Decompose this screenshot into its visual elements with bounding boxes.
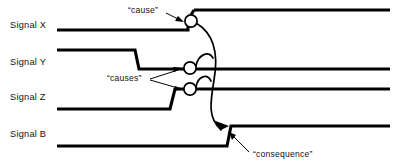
waveform-signal-z [57,89,390,109]
timing-diagram-canvas: Signal X Signal Y Signal Z Signal B “cau… [0,0,402,164]
annotation-causes: “causes” [107,67,183,91]
signal-label-b: Signal B [10,129,46,139]
causal-curve-z [196,76,211,87]
waveform-signal-x [57,10,390,30]
causal-curve-main [196,23,221,130]
event-node-cause-z[interactable] [184,83,196,95]
timing-diagram: Signal X Signal Y Signal Z Signal B “cau… [0,0,402,164]
waveform-signal-b [57,126,390,146]
annotation-consequence: “consequence” [229,132,312,159]
signal-label-z: Signal Z [10,92,46,102]
causal-link-z-arc [196,76,211,87]
annotation-cause-arrowhead [175,16,184,22]
signal-z-rising-segment [57,89,184,109]
signal-b-rising-segment [57,126,390,146]
causal-curve-y [196,54,213,66]
event-node-cause-x[interactable] [185,15,197,27]
annotation-causes-label: “causes” [107,73,142,83]
causal-link-x-to-b [196,23,229,130]
annotation-causes-leader-to-y [150,70,178,79]
annotation-causes-leader-to-z [150,80,178,88]
annotation-cause: “cause” [128,5,184,22]
annotation-consequence-label: “consequence” [253,149,312,159]
annotation-cause-label: “cause” [128,5,158,15]
signal-label-x: Signal X [10,20,46,30]
signal-y-falling-segment [57,50,184,69]
signal-x-low-segment [57,21,188,30]
causal-link-y-arc [196,54,213,66]
annotation-consequence-leader [233,136,249,152]
signal-label-y: Signal Y [10,57,46,67]
causal-curve-arrowhead [213,120,229,130]
waveform-signal-y [57,50,390,69]
event-node-cause-y[interactable] [184,62,196,74]
